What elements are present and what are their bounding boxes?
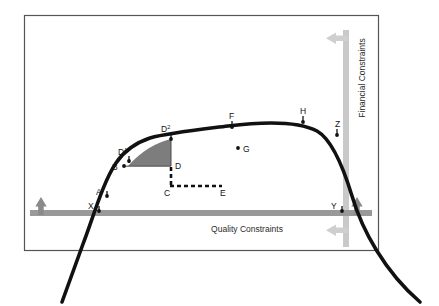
point-dot-f: [230, 125, 234, 129]
point-label-d1-sup: 1: [124, 147, 127, 153]
point-label-a: A: [96, 187, 102, 197]
point-label-g: G: [243, 144, 250, 154]
point-label-d2-sup: 2: [167, 124, 170, 130]
point-label-d1: D1: [118, 147, 127, 157]
point-label-h: H: [300, 106, 306, 116]
point-dot-d2: [169, 137, 173, 141]
point-dot-b: [122, 164, 126, 168]
point-dot-d1: [127, 159, 131, 163]
point-dot-x: [97, 209, 101, 213]
point-dot-z: [335, 133, 339, 137]
point-dot-a: [105, 194, 109, 198]
point-label-d: D: [175, 161, 181, 171]
point-label-e: E: [220, 188, 226, 198]
diagram-canvas: X A B D1 D2 D C E F G H Y Z Quality Cons…: [0, 0, 439, 306]
diagram-svg: X A B D1 D2 D C E F G H Y Z Quality Cons…: [0, 0, 439, 306]
point-label-y: Y: [331, 201, 337, 211]
point-label-c: C: [164, 188, 170, 198]
point-label-f: F: [229, 111, 234, 121]
point-label-b: B: [112, 162, 118, 172]
point-dot-h: [301, 120, 305, 124]
point-label-z: Z: [335, 119, 340, 129]
financial-constraints-label: Financial Constraints: [357, 38, 367, 117]
point-dot-g: [236, 146, 240, 150]
efficiency-gain-area: [128, 139, 171, 166]
quality-constraints-label: Quality Constraints: [211, 224, 283, 234]
point-dot-y: [340, 209, 344, 213]
point-label-x: X: [88, 201, 94, 211]
